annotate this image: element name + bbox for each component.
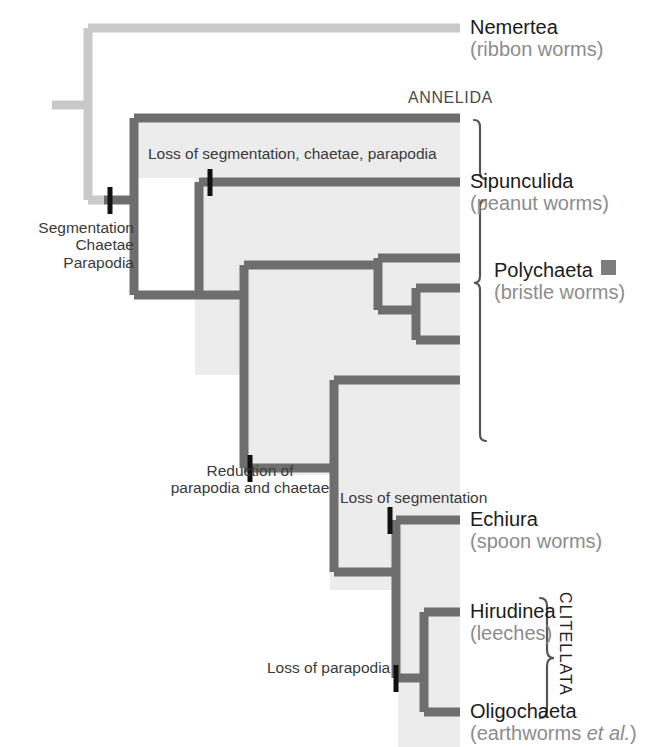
taxon-name-nemertea: Nemertea xyxy=(470,16,603,38)
taxon-name-echiura: Echiura xyxy=(470,508,602,530)
taxon-label-polychaeta: Polychaeta (bristle worms) xyxy=(494,259,625,304)
taxon-common-polychaeta: (bristle worms) xyxy=(494,281,625,303)
oligochaeta-common-suffix: ) xyxy=(630,722,637,744)
polychaeta-color-swatch xyxy=(601,260,616,275)
clade-shading xyxy=(130,118,460,747)
oligochaeta-common-prefix: (earthworms xyxy=(470,722,587,744)
bracket-polychaeta xyxy=(474,200,486,441)
taxon-name-polychaeta: Polychaeta xyxy=(494,259,625,281)
annotation-loss-of-segmentation-chaetae-parapodia: Loss of segmentation, chaetae, parapodia xyxy=(148,145,437,162)
taxon-label-sipunculida: Sipunculida (peanut worms) xyxy=(470,170,609,215)
annotation-line-parapodia: Parapodia xyxy=(0,254,134,271)
annotation-loss-of-parapodia: Loss of parapodia xyxy=(267,659,390,676)
annotation-reduction-of-parapodia-and-chaetae: Reduction of parapodia and chaetae xyxy=(140,462,360,497)
taxon-name-polychaeta-text: Polychaeta xyxy=(494,259,593,281)
taxon-name-hirudinea: Hirudinea xyxy=(470,600,556,622)
taxon-name-oligochaeta: Oligochaeta xyxy=(470,700,637,722)
annotation-segmentation-chaetae-parapodia: Segmentation Chaetae Parapodia xyxy=(0,219,134,271)
oligochaeta-common-italic: et al. xyxy=(587,722,630,744)
annotation-line-parapodia-and-chaetae: parapodia and chaetae xyxy=(140,479,360,496)
taxon-name-sipunculida: Sipunculida xyxy=(470,170,609,192)
taxon-common-oligochaeta: (earthworms et al.) xyxy=(470,722,637,744)
annotation-line-reduction-of: Reduction of xyxy=(140,462,360,479)
taxon-label-hirudinea: Hirudinea (leeches) xyxy=(470,600,556,645)
taxon-common-nemertea: (ribbon worms) xyxy=(470,38,603,60)
taxon-common-sipunculida: (peanut worms) xyxy=(470,192,609,214)
cladogram-figure: Nemertea (ribbon worms) Sipunculida (pea… xyxy=(0,0,651,747)
annotation-line-chaetae: Chaetae xyxy=(0,236,134,253)
taxon-label-echiura: Echiura (spoon worms) xyxy=(470,508,602,553)
taxon-label-nemertea: Nemertea (ribbon worms) xyxy=(470,16,603,61)
taxon-label-oligochaeta: Oligochaeta (earthworms et al.) xyxy=(470,700,637,745)
taxon-common-echiura: (spoon worms) xyxy=(470,530,602,552)
clade-label-clitellata: CLITELLATA xyxy=(556,592,574,696)
annotation-line-segmentation: Segmentation xyxy=(0,219,134,236)
clade-label-annelida: ANNELIDA xyxy=(408,89,493,107)
taxon-common-hirudinea: (leeches) xyxy=(470,622,556,644)
annotation-loss-of-segmentation: Loss of segmentation xyxy=(340,489,487,506)
